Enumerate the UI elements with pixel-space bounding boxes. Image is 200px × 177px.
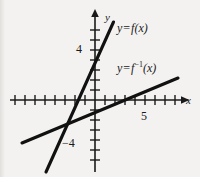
function-label-f-inverse: y=f−1(x) (117, 62, 156, 74)
y-axis-label: y (105, 12, 110, 23)
x-axis-label: x (186, 95, 191, 106)
function-label-f-equals: = (122, 21, 131, 35)
function-label-f-inverse-equals: = (122, 61, 131, 75)
function-label-f: y=f(x) (117, 22, 148, 34)
y-tick-label-minus-4: −4 (62, 137, 75, 149)
line-f-inverse (22, 78, 178, 143)
function-label-f-inverse-arg: (x) (143, 61, 156, 75)
y-axis-arrow-icon (91, 9, 99, 17)
y-tick-label-4: 4 (76, 43, 82, 55)
function-label-f-inverse-exponent: −1 (134, 60, 143, 69)
x-axis (10, 96, 190, 104)
graph-figure: y x 4 −4 5 y=f(x) y=f−1(x) (0, 0, 200, 177)
function-label-f-arg: (x) (134, 21, 147, 35)
x-tick-label-5: 5 (141, 110, 147, 122)
coordinate-plane (0, 0, 200, 177)
